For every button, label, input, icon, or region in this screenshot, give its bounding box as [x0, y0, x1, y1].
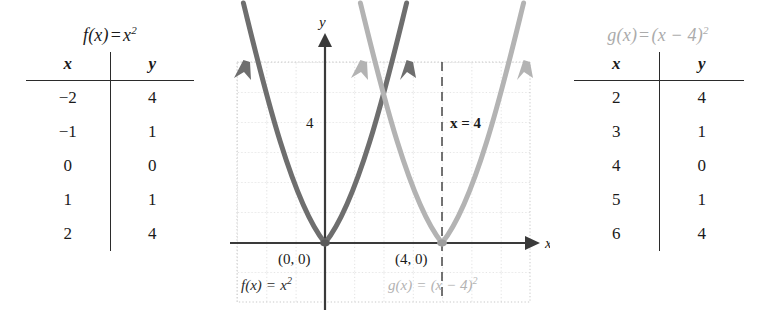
f-table-panel: f(x)=x2 x y −2 4 −1 1 0 0 1 1	[0, 0, 220, 328]
g-cell-x: 5	[574, 183, 659, 217]
f-cell-y: 1	[110, 115, 194, 149]
table-row: 6 4	[574, 217, 744, 251]
vertex-label-f: (0, 0)	[278, 251, 311, 268]
f-table-title: f(x)=x2	[0, 24, 220, 46]
f-value-table: x y −2 4 −1 1 0 0 1 1 2 4	[26, 52, 194, 251]
x-axis-arrowhead	[525, 236, 540, 250]
g-header-y: y	[659, 52, 744, 81]
f-cell-x: 2	[26, 217, 110, 251]
f-cell-y: 0	[110, 149, 194, 183]
f-cell-y: 4	[110, 81, 194, 116]
table-row: 4 0	[574, 149, 744, 183]
f-cell-x: −2	[26, 81, 110, 116]
vertex-marker-g	[437, 240, 447, 247]
g-cell-y: 0	[659, 149, 744, 183]
f-title-equals: =	[109, 25, 123, 45]
curve-f-label-exponent: 2	[287, 275, 292, 286]
f-cell-x: 1	[26, 183, 110, 217]
g-title-exponent: 2	[703, 24, 709, 36]
table-row: 2 4	[26, 217, 194, 251]
g-cell-x: 6	[574, 217, 659, 251]
curve-g-label-expr: (x − 4)	[431, 277, 473, 294]
g-title-prefix: g(x)	[607, 25, 637, 45]
g-cell-x: 2	[574, 81, 659, 116]
g-value-table: x y 2 4 3 1 4 0 5 1 6 4	[574, 52, 744, 251]
table-row: −2 4	[26, 81, 194, 116]
table-row: −1 1	[26, 115, 194, 149]
table-row: 2 4	[574, 81, 744, 116]
curve-g-label-prefix: g(x)	[388, 277, 412, 294]
curve-f-label-prefix: f(x)	[241, 277, 262, 294]
y-tick-label-4: 4	[306, 115, 314, 131]
curve-g-label: g(x)=(x − 4)2	[388, 275, 477, 294]
graph-panel: y x 4 x = 4 (0, 0) (4, 0) f(x)=x2 g(x)=(…	[220, 0, 550, 328]
g-title-expr: (x − 4)	[651, 25, 703, 45]
f-cell-x: 0	[26, 149, 110, 183]
g-title-equals: =	[637, 25, 651, 45]
vertex-marker-f	[320, 240, 330, 247]
y-axis-label: y	[317, 14, 326, 30]
g-cell-x: 3	[574, 115, 659, 149]
f-title-prefix: f(x)	[83, 25, 109, 45]
table-row: 3 1	[574, 115, 744, 149]
f-cell-y: 1	[110, 183, 194, 217]
curve-g-label-exponent: 2	[472, 275, 477, 286]
g-cell-x: 4	[574, 149, 659, 183]
g-table-panel: g(x)=(x − 4)2 x y 2 4 3 1 4 0 5 1	[550, 0, 766, 328]
f-cell-x: −1	[26, 115, 110, 149]
f-cell-y: 4	[110, 217, 194, 251]
curve-g-label-equals: =	[417, 277, 425, 293]
f-title-exponent: 2	[131, 24, 137, 36]
g-cell-y: 4	[659, 217, 744, 251]
g-cell-y: 4	[659, 81, 744, 116]
vertex-label-g: (4, 0)	[395, 251, 428, 268]
vertical-line-label: x = 4	[450, 115, 482, 131]
g-header-x: x	[574, 52, 659, 81]
f-header-y: y	[110, 52, 194, 81]
g-table-header-row: x y	[574, 52, 744, 81]
f-header-x: x	[26, 52, 110, 81]
f-table-header-row: x y	[26, 52, 194, 81]
g-cell-y: 1	[659, 115, 744, 149]
table-row: 5 1	[574, 183, 744, 217]
y-axis-arrowhead	[318, 33, 332, 47]
table-row: 1 1	[26, 183, 194, 217]
g-cell-y: 1	[659, 183, 744, 217]
coordinate-plane: y x 4 x = 4 (0, 0) (4, 0) f(x)=x2 g(x)=(…	[220, 0, 550, 328]
curve-f-label-equals: =	[267, 277, 275, 293]
g-table-title: g(x)=(x − 4)2	[550, 24, 766, 46]
curve-f-label: f(x)=x2	[241, 275, 292, 294]
table-row: 0 0	[26, 149, 194, 183]
